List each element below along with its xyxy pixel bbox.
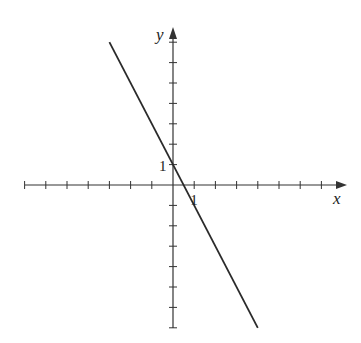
axes <box>25 27 347 328</box>
y-axis-arrow <box>169 27 177 39</box>
x-axis-arrow <box>336 181 347 189</box>
y-tick-label-1: 1 <box>159 158 167 174</box>
y-axis-label: y <box>154 25 164 44</box>
chart-svg: x y 1 1 <box>0 0 361 343</box>
x-axis-label: x <box>332 189 341 208</box>
x-tick-label-1: 1 <box>190 192 198 208</box>
